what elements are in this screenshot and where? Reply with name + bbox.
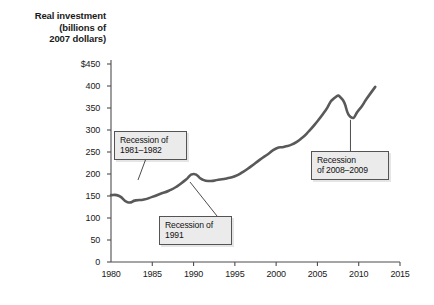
annotation-leader-line	[190, 182, 217, 216]
x-tick-label: 1985	[132, 270, 172, 279]
annotation-2-line-1: Recession of	[165, 220, 227, 230]
annotation-3-line-1: Recession	[317, 155, 384, 165]
y-tick-label: 400	[60, 82, 100, 91]
y-tick-label: 50	[60, 236, 100, 245]
annotation-recession-1991: Recession of 1991	[159, 216, 232, 245]
x-axis-ticks	[152, 262, 400, 266]
y-tick-label: 100	[60, 214, 100, 223]
x-tick-label: 2015	[380, 270, 420, 279]
y-tick-label: 300	[60, 126, 100, 135]
x-tick-label: 1990	[174, 270, 214, 279]
y-tick-label: 350	[60, 104, 100, 113]
x-tick-label: 2010	[339, 270, 379, 279]
annotation-recession-1981-1982: Recession of 1981–1982	[114, 131, 187, 160]
y-tick-label: 150	[60, 192, 100, 201]
investment-line-chart: Real investment (billions of 2007 dollar…	[0, 0, 434, 305]
x-tick-label: 1980	[91, 270, 131, 279]
y-tick-label: 200	[60, 170, 100, 179]
y-tick-label: $450	[60, 60, 100, 69]
annotation-3-line-2: of 2008–2009	[317, 165, 384, 175]
y-tick-label: 250	[60, 148, 100, 157]
annotation-2-line-2: 1991	[165, 230, 227, 240]
x-tick-label: 2000	[256, 270, 296, 279]
annotation-recession-2008-2009: Recession of 2008–2009	[311, 151, 389, 180]
annotation-1-line-2: 1981–1982	[120, 145, 182, 155]
y-tick-label: 0	[60, 258, 100, 267]
x-tick-label: 2005	[297, 270, 337, 279]
y-axis-ticks	[107, 64, 111, 262]
x-tick-label: 1995	[215, 270, 255, 279]
annotation-1-line-1: Recession of	[120, 135, 182, 145]
